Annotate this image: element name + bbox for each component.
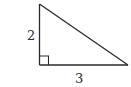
right-angle-marker <box>40 56 49 65</box>
vertical-leg-label: 2 <box>27 28 35 43</box>
right-triangle-diagram: 2 3 <box>0 0 131 87</box>
hypotenuse <box>40 4 129 65</box>
horizontal-leg-label: 3 <box>75 71 83 86</box>
